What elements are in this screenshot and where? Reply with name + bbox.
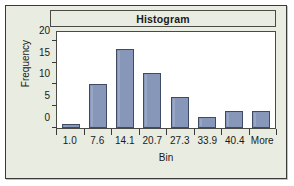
x-axis-tick-label: 33.9	[194, 136, 222, 146]
chart-title-box: Histogram	[50, 10, 276, 27]
x-axis-tickmark	[56, 129, 57, 135]
bar	[252, 111, 270, 128]
y-axis-tickmark	[52, 105, 57, 106]
chart-frame: Histogram Frequency 05101520 1.07.614.12…	[5, 5, 287, 179]
bar-slot	[166, 32, 193, 128]
bar	[225, 111, 243, 128]
x-axis-tickmark	[111, 129, 112, 135]
y-axis-title: Frequency	[20, 19, 31, 109]
bar-slot	[84, 32, 111, 128]
bar	[171, 97, 189, 128]
x-axis-tick-label: 1.0	[56, 136, 84, 146]
y-axis-tickmark	[52, 62, 57, 63]
x-axis-tick-labels: 1.07.614.120.727.333.940.4More	[56, 136, 276, 146]
y-axis-tick-label: 0	[44, 113, 57, 123]
x-axis-title: Bin	[56, 153, 276, 163]
screenshot-root: Histogram Frequency 05101520 1.07.614.12…	[0, 0, 294, 186]
bar-slot	[248, 32, 275, 128]
x-axis-tick-label: 7.6	[84, 136, 112, 146]
chart-title: Histogram	[51, 13, 275, 24]
x-axis-tickmark	[276, 129, 277, 135]
y-axis-tickmark	[52, 40, 57, 41]
bar-slot	[221, 32, 248, 128]
bar	[89, 84, 107, 128]
y-axis-tick-label: 20	[39, 26, 57, 36]
x-axis-tickmark	[249, 129, 250, 135]
bar	[143, 73, 161, 128]
y-axis-tick-label: 10	[39, 69, 57, 79]
bar-slot	[193, 32, 220, 128]
bar-slot	[57, 32, 84, 128]
y-axis-tick-label: 15	[39, 48, 57, 58]
x-axis-tickmark	[139, 129, 140, 135]
y-axis-tickmark	[52, 83, 57, 84]
bar	[62, 124, 80, 128]
bar-slot	[139, 32, 166, 128]
x-axis-tick-label: 20.7	[139, 136, 167, 146]
bar-slot	[112, 32, 139, 128]
x-axis-tick-label: 27.3	[166, 136, 194, 146]
x-axis-tickmark	[194, 129, 195, 135]
x-axis-tickmark	[84, 129, 85, 135]
x-axis-tick-label: 14.1	[111, 136, 139, 146]
x-axis-tickmark	[221, 129, 222, 135]
y-axis-tick-label: 5	[44, 91, 57, 101]
bar	[116, 49, 134, 128]
x-axis-tick-label: 40.4	[221, 136, 249, 146]
y-axis-tickmark	[52, 127, 57, 128]
bar-series	[57, 32, 275, 128]
x-axis-tick-label: More	[249, 136, 277, 146]
bar	[198, 117, 216, 128]
plot-area: 05101520	[56, 31, 276, 129]
x-axis-tickmark	[166, 129, 167, 135]
